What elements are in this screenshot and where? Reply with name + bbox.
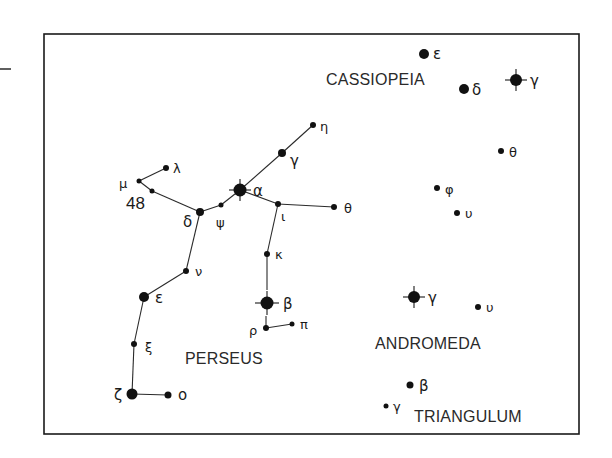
star-and-upsilon-1 (454, 210, 460, 216)
star-dot-icon (408, 291, 420, 303)
constellation-line (144, 271, 186, 297)
star-cas-gamma (505, 69, 527, 91)
star-label: ι (281, 209, 285, 224)
constellation-line (139, 168, 166, 181)
star-label: ο (178, 386, 187, 404)
constellation-name-triangulum: TRIANGULUM (414, 408, 522, 425)
star-label: ν (195, 264, 202, 279)
constellation-name-andromeda: ANDROMEDA (375, 335, 481, 352)
star-dot-icon (127, 389, 138, 400)
star-per-nu (183, 268, 189, 274)
star-per-pi (290, 322, 295, 327)
star-dot-icon (290, 322, 295, 327)
star-label: α (253, 182, 263, 200)
star-label: μ (119, 176, 127, 191)
star-dot-icon (310, 122, 316, 128)
constellation-names: CASSIOPEIAPERSEUSANDROMEDATRIANGULUM (185, 71, 522, 425)
star-per-gamma (278, 149, 286, 157)
star-dot-icon (510, 74, 522, 86)
star-dot-icon (131, 341, 137, 347)
star-per-48 (150, 189, 155, 194)
star-label: ρ (249, 323, 257, 338)
star-dot-icon (163, 165, 169, 171)
star-label: κ (275, 247, 283, 262)
star-label: ε (433, 45, 441, 63)
star-dot-icon (165, 392, 172, 399)
star-dot-icon (196, 208, 204, 216)
constellation-line (266, 324, 292, 328)
star-label: β (283, 295, 293, 313)
star-per-mu (137, 179, 142, 184)
star-per-kappa (264, 251, 270, 257)
star-dot-icon (275, 201, 281, 207)
star-label: ζ (114, 386, 122, 404)
star-dot-icon (475, 304, 481, 310)
star-per-beta (255, 291, 279, 315)
star-label: ε (155, 289, 163, 307)
star-per-alpha (229, 179, 251, 201)
star-dot-icon (498, 148, 504, 154)
star-dot-icon (264, 251, 270, 257)
star-labels: εδγηγαψδ48μλιθκβρπνεξζοθφυγυβγ (114, 45, 539, 414)
star-per-xi (131, 341, 137, 347)
star-dot-icon (454, 210, 460, 216)
star-per-epsilon (139, 292, 149, 302)
chart-frame (44, 34, 579, 434)
constellation-name-cassiopeia: CASSIOPEIA (326, 71, 425, 88)
star-dot-icon (219, 203, 224, 208)
star-per-eta (310, 122, 316, 128)
star-per-lambda (163, 165, 169, 171)
star-dot-icon (261, 297, 274, 310)
star-label: γ (428, 289, 437, 307)
star-and-phi (434, 185, 440, 191)
star-label: γ (290, 152, 299, 170)
star-label: γ (530, 72, 539, 90)
star-label: η (320, 119, 328, 134)
star-dot-icon (183, 268, 189, 274)
star-cas-epsilon (419, 49, 429, 59)
star-per-psi (219, 203, 224, 208)
star-label: δ (472, 81, 481, 99)
star-label: υ (465, 206, 473, 221)
star-dot-icon (459, 84, 469, 94)
star-label: δ (183, 213, 192, 231)
star-and-upsilon-2 (475, 304, 481, 310)
star-dot-icon (434, 185, 440, 191)
star-label: β (419, 377, 429, 395)
star-per-zeta (127, 389, 138, 400)
star-per-iota (275, 201, 281, 207)
star-label: ψ (216, 215, 225, 230)
star-dot-icon (419, 49, 429, 59)
star-per-delta (196, 208, 204, 216)
star-label: υ (486, 300, 494, 315)
star-per-rho (263, 325, 269, 331)
star-dot-icon (234, 184, 247, 197)
star-tri-gamma (384, 404, 389, 409)
star-dot-icon (263, 325, 269, 331)
constellation-line (282, 125, 313, 153)
star-tri-beta (407, 382, 414, 389)
constellation-line (152, 191, 200, 212)
star-label: θ (509, 145, 517, 160)
star-label: ξ (145, 340, 152, 355)
star-label: γ (393, 399, 401, 414)
star-per-omicron (165, 392, 172, 399)
star-dot-icon (384, 404, 389, 409)
star-and-gamma (403, 286, 425, 308)
star-dot-icon (331, 204, 337, 210)
star-dot-icon (137, 179, 142, 184)
star-label: π (300, 317, 308, 332)
star-dot-icon (139, 292, 149, 302)
star-cas-delta (459, 84, 469, 94)
constellation-name-perseus: PERSEUS (185, 350, 263, 367)
star-dot-icon (150, 189, 155, 194)
star-label: λ (173, 161, 181, 176)
constellation-line (134, 297, 144, 344)
star-dot-icon (278, 149, 286, 157)
constellation-line (278, 204, 334, 207)
star-per-theta (331, 204, 337, 210)
star-dot-icon (407, 382, 414, 389)
constellation-line (132, 344, 134, 394)
star-label: θ (344, 201, 352, 216)
star-and-theta (498, 148, 504, 154)
